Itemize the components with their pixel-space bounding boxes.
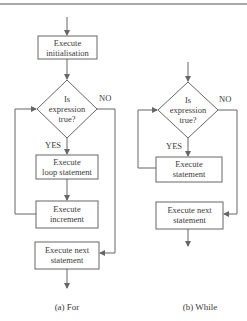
for-body-label: Execute loop statement <box>36 157 98 177</box>
for-condition-label: Is expression true? <box>42 94 92 124</box>
for-caption: (a) For <box>30 302 104 313</box>
for-no-line <box>97 109 115 253</box>
while-condition-label: Is expression true? <box>163 95 213 125</box>
while-yes-label: YES <box>166 141 182 151</box>
for-increment-label: Execute increment <box>36 204 98 224</box>
while-caption: (b) While <box>160 302 240 313</box>
for-next-label: Execute next statement <box>35 245 99 265</box>
for-init-label: Execute initialisation <box>38 38 97 58</box>
while-loopback-line <box>138 110 157 168</box>
for-loopback-line <box>15 109 36 214</box>
for-no-label: NO <box>99 93 111 103</box>
while-no-label: NO <box>219 94 231 104</box>
while-body-label: Execute statement <box>156 159 222 179</box>
while-next-label: Execute next statement <box>156 205 223 225</box>
for-yes-label: YES <box>45 140 61 150</box>
